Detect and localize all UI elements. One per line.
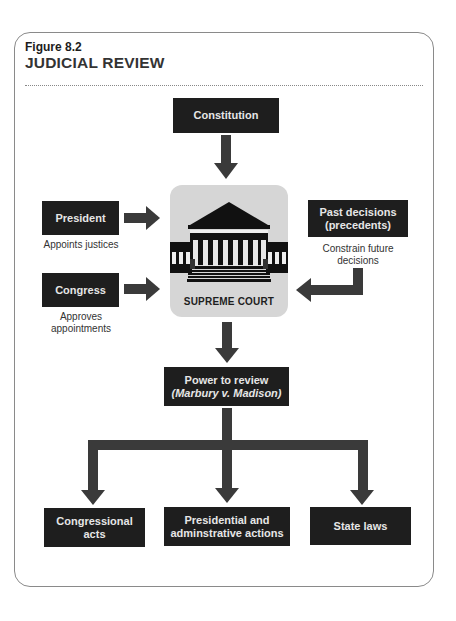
node-congressional-acts-line2: acts bbox=[83, 528, 105, 541]
node-past-decisions: Past decisions (precedents) bbox=[308, 200, 408, 237]
congress-caption-line2: appointments bbox=[36, 323, 126, 335]
congress-caption-line1: Approves bbox=[36, 311, 126, 323]
supreme-court-label: SUPREME COURT bbox=[170, 296, 288, 307]
node-constitution: Constitution bbox=[173, 98, 279, 133]
past-decisions-caption-line2: decisions bbox=[303, 255, 413, 267]
node-presidential-actions-line1: Presidential and bbox=[185, 514, 270, 527]
node-constitution-label: Constitution bbox=[194, 109, 259, 122]
node-presidential-actions: Presidential and adminstrative actions bbox=[164, 507, 290, 546]
node-power-to-review-line2: (Marbury v. Madison) bbox=[171, 387, 281, 400]
node-congressional-acts-line1: Congressional bbox=[56, 515, 132, 528]
node-congress: Congress bbox=[42, 273, 119, 307]
past-decisions-caption-line1: Constrain future bbox=[303, 243, 413, 255]
node-president-label: President bbox=[55, 212, 105, 225]
node-state-laws: State laws bbox=[310, 507, 411, 545]
node-presidential-actions-line2: adminstrative actions bbox=[170, 527, 283, 540]
congress-caption: Approves appointments bbox=[36, 311, 126, 335]
arrow-stem-constitution bbox=[221, 135, 231, 165]
node-past-decisions-line1: Past decisions bbox=[319, 206, 396, 219]
node-congressional-acts: Congressional acts bbox=[44, 508, 145, 547]
past-decisions-caption: Constrain future decisions bbox=[303, 243, 413, 267]
arrow-head-constitution bbox=[214, 163, 238, 179]
node-past-decisions-line2: (precedents) bbox=[325, 219, 391, 232]
node-power-to-review-line1: Power to review bbox=[185, 374, 269, 387]
president-caption: Appoints justices bbox=[36, 239, 126, 251]
node-supreme-court: SUPREME COURT bbox=[170, 185, 288, 317]
node-state-laws-label: State laws bbox=[334, 520, 388, 533]
node-congress-label: Congress bbox=[55, 284, 106, 297]
node-power-to-review: Power to review (Marbury v. Madison) bbox=[164, 367, 289, 406]
node-president: President bbox=[42, 201, 119, 235]
